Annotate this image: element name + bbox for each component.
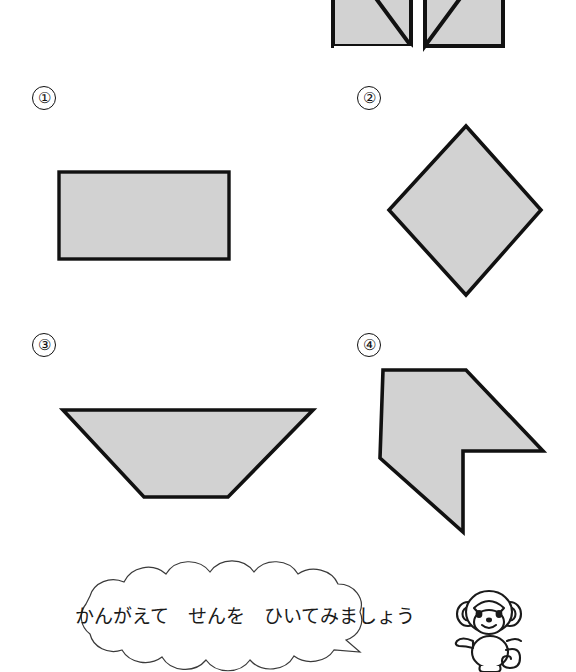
problem-number-1: ①	[32, 86, 56, 110]
rectangle-body	[59, 172, 229, 259]
speech-bubble: かんがえて せんを ひいてみましょう	[50, 566, 440, 666]
shape-rectangle	[40, 150, 250, 275]
shape-trapezoid	[45, 395, 335, 520]
trapezoid-body	[63, 410, 313, 497]
monkey-icon	[444, 578, 554, 672]
example-left-gap	[334, 46, 420, 54]
monkey-legs	[480, 666, 501, 672]
problem-number-4: ④	[357, 333, 381, 357]
monkey-nose	[486, 618, 492, 623]
monkey-left-arm	[456, 639, 473, 649]
problem-number-2: ②	[357, 86, 381, 110]
problem-number-3: ③	[32, 333, 56, 357]
shape-diamond	[375, 112, 555, 312]
example-shape	[325, 0, 515, 54]
arrow-polygon-body	[380, 370, 543, 532]
monkey-right-eye	[496, 610, 503, 618]
monkey-left-eye	[476, 610, 483, 618]
diamond-body	[389, 126, 541, 295]
worksheet-page: ① ② ③ ④ かんがえて せんを ひいてみましょう	[0, 0, 576, 672]
instruction-text: かんがえて せんを ひいてみましょう	[75, 605, 415, 627]
shape-arrow-polygon	[365, 355, 560, 550]
monkey-right-arm	[507, 639, 521, 641]
